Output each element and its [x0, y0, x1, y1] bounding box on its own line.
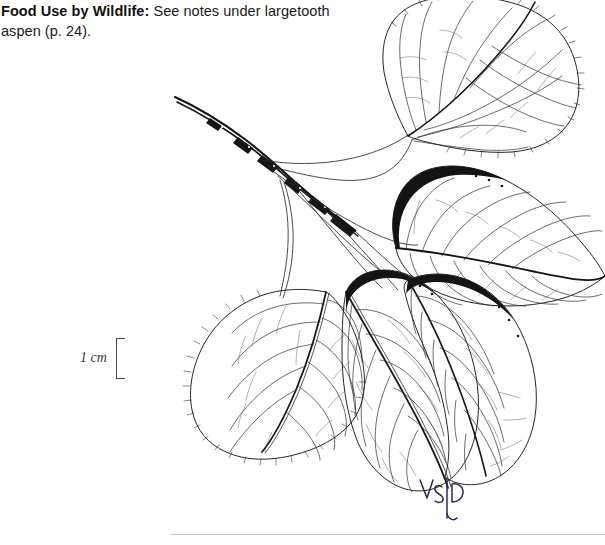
botanical-illustration — [150, 0, 605, 520]
leaf-lower-left — [183, 289, 366, 465]
footer-rule — [170, 534, 605, 535]
scale-bar: 1 cm — [80, 337, 125, 379]
caption-lead-label: Food Use by Wildlife: — [1, 3, 149, 19]
twig-group — [175, 97, 358, 237]
artist-signature — [418, 476, 478, 524]
scale-bracket-icon — [116, 338, 125, 379]
scale-bar-label: 1 cm — [80, 350, 107, 366]
leaf-upper-right — [383, 0, 584, 158]
book-page: Food Use by Wildlife: See notes under la… — [0, 0, 605, 545]
